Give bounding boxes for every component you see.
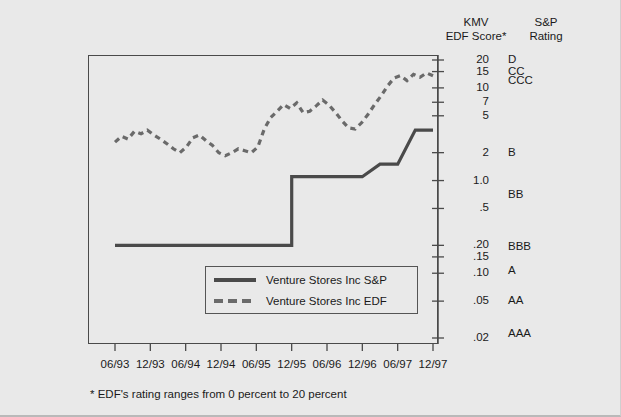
sp-column-header: S&P Rating	[516, 15, 576, 43]
x-axis-tick-label: 12/94	[201, 358, 241, 370]
y-axis-tick-label: 20	[455, 54, 489, 65]
sp-rating-label: CCC	[508, 75, 556, 86]
chart-page: KMV EDF Score* S&P Rating 2015107521.0.5…	[0, 0, 621, 417]
legend-swatch-solid-icon	[214, 278, 256, 282]
sp-rating-label: BB	[508, 189, 556, 200]
y-axis-tick-label: 1.0	[455, 175, 489, 186]
x-axis-tick-label: 06/96	[307, 358, 347, 370]
y-axis-tick-label: .5	[455, 202, 489, 213]
x-axis-tick-label: 12/97	[413, 358, 453, 370]
legend-swatch-dashed-icon	[214, 299, 256, 303]
sp-header-line1: S&P	[516, 15, 576, 29]
x-axis-tick-label: 12/96	[342, 358, 382, 370]
kmv-header-line2: EDF Score*	[440, 29, 512, 43]
kmv-header-line1: KMV	[440, 15, 512, 29]
y-axis-tick-label: .20	[455, 239, 489, 250]
x-axis-tick-label: 06/95	[236, 358, 276, 370]
sp-rating-label: BBB	[508, 241, 556, 252]
x-axis-tick-label: 06/94	[166, 358, 206, 370]
sp-rating-label: D	[508, 54, 556, 65]
chart-footnote: * EDF's rating ranges from 0 percent to …	[90, 388, 347, 400]
x-axis-tick-label: 06/97	[378, 358, 418, 370]
x-axis-tick-label: 12/93	[130, 358, 170, 370]
y-axis-tick-label: .15	[455, 251, 489, 262]
legend-label-edf: Venture Stores Inc EDF	[266, 295, 387, 307]
x-axis-tick-label: 12/95	[272, 358, 312, 370]
legend-item-sp: Venture Stores Inc S&P	[214, 271, 387, 289]
kmv-column-header: KMV EDF Score*	[440, 15, 512, 43]
y-axis-tick-label: 7	[455, 96, 489, 107]
x-axis-tick-label: 06/93	[95, 358, 135, 370]
sp-header-line2: Rating	[516, 29, 576, 43]
y-axis-tick-label: 10	[455, 82, 489, 93]
sp-rating-label: AAA	[508, 328, 556, 339]
y-axis-tick-label: 2	[455, 147, 489, 158]
y-axis-tick-label: 5	[455, 110, 489, 121]
sp-rating-label: AA	[508, 295, 556, 306]
y-axis-tick-label: .05	[455, 295, 489, 306]
sp-rating-label: A	[508, 265, 556, 276]
sp-rating-label: B	[508, 147, 556, 158]
y-axis-tick-label: 15	[455, 66, 489, 77]
x-axis-ticks	[115, 344, 433, 351]
legend-label-sp: Venture Stores Inc S&P	[266, 274, 387, 286]
y-axis-tick-label: .02	[455, 332, 489, 343]
y-axis-tick-label: .10	[455, 267, 489, 278]
legend-item-edf: Venture Stores Inc EDF	[214, 292, 387, 310]
chart-legend: Venture Stores Inc S&P Venture Stores In…	[205, 266, 418, 314]
